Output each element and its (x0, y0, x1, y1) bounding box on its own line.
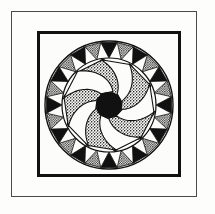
rosette-group (45, 41, 173, 169)
center-hub-disc (96, 92, 122, 118)
figure-canvas: Rosette Pinwheel Woodcut (0, 0, 215, 214)
rosette-artwork (37, 31, 181, 177)
